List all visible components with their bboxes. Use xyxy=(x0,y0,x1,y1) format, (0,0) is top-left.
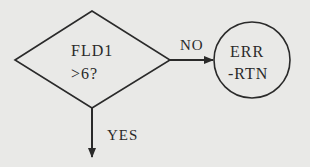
flowchart-canvas: FLD1 >6? ERR -RTN NO YES xyxy=(0,0,310,167)
flowchart-shapes xyxy=(0,0,310,167)
yes-label: YES xyxy=(107,126,138,144)
decision-text-line2: >6? xyxy=(71,65,98,83)
decision-text-line1: FLD1 xyxy=(71,42,113,60)
no-label: NO xyxy=(180,36,204,54)
err-text-line1: ERR xyxy=(230,43,264,61)
err-text-line2: -RTN xyxy=(228,65,268,83)
